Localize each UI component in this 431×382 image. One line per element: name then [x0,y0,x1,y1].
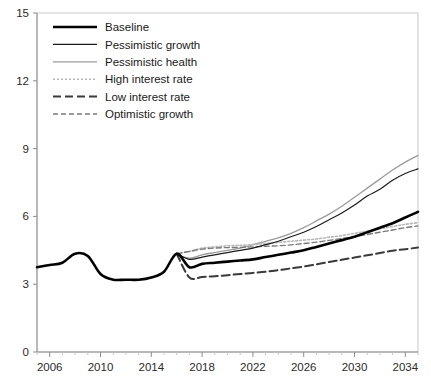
legend-label: High interest rate [105,73,193,85]
x-tick-label: 2034 [393,361,419,373]
x-tick-label: 2018 [189,361,215,373]
legend-label: Baseline [105,21,149,33]
x-tick-label: 2026 [291,361,317,373]
legend-label: Pessimistic growth [105,39,200,51]
y-axis-tick-labels: 03691215 [16,7,29,358]
plot-background [37,13,418,352]
y-tick-label: 15 [16,7,29,19]
legend-label: Optimistic growth [105,108,193,120]
y-tick-label: 6 [23,210,29,222]
y-axis-ticks [33,13,37,352]
x-tick-label: 2006 [37,361,63,373]
x-tick-label: 2010 [88,361,114,373]
x-tick-label: 2014 [139,361,165,373]
x-tick-label: 2030 [342,361,368,373]
y-tick-label: 0 [23,346,29,358]
legend-label: Low interest rate [105,91,190,103]
chart-container: 03691215 2006201020142018202220262030203… [0,0,431,382]
y-tick-label: 12 [16,75,29,87]
x-axis-tick-labels: 20062010201420182022202620302034 [37,361,419,373]
line-chart: 03691215 2006201020142018202220262030203… [0,0,431,382]
legend-label: Pessimistic health [105,56,197,68]
x-axis-ticks [37,352,418,357]
y-tick-label: 9 [23,143,29,155]
x-tick-label: 2022 [240,361,266,373]
y-tick-label: 3 [23,278,29,290]
